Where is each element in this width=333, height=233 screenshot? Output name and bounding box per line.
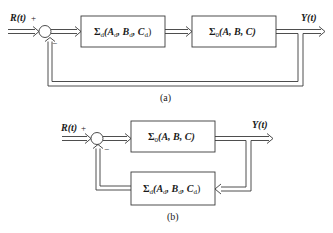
diagram-b: R(t) + − Σ0(A, B, C) Y(t) <box>60 119 273 223</box>
output-arrow-a <box>276 27 325 37</box>
input-label-a: R(t) <box>9 12 26 24</box>
feedback-to-junction-b <box>93 145 131 191</box>
block-diagrams: R(t) + − Σd(Ad, Bd, Cd) Σ0(A, B, C) <box>0 0 333 233</box>
plus-sign-a: + <box>31 13 36 23</box>
input-label-b: R(t) <box>60 122 77 134</box>
plus-sign-b: + <box>81 123 86 133</box>
feedback-to-sigma-d-b <box>215 141 251 195</box>
minus-sign-b: − <box>104 144 109 154</box>
summing-junction-b <box>91 133 103 145</box>
output-label-b: Y(t) <box>252 119 268 131</box>
input-arrow-a <box>8 27 39 37</box>
input-arrow-b <box>62 134 91 144</box>
output-label-a: Y(t) <box>301 12 317 24</box>
output-arrow-b <box>215 134 273 144</box>
caption-b: (b) <box>167 211 179 223</box>
arrow-block1-to-block2-a <box>165 27 192 37</box>
summing-junction-a <box>39 26 51 38</box>
arrow-junction-to-block1-a <box>51 27 81 37</box>
caption-a: (a) <box>160 92 171 104</box>
arrow-junction-to-forward-b <box>103 134 131 144</box>
diagram-a: R(t) + − Σd(Ad, Bd, Cd) Σ0(A, B, C) <box>8 12 325 104</box>
